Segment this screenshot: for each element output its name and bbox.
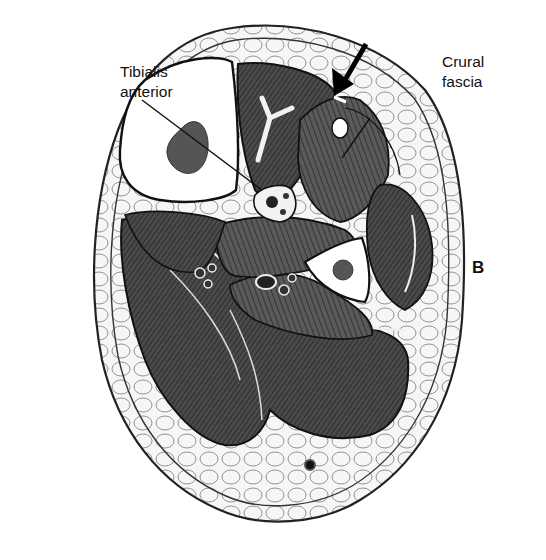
label-crural-line2: fascia bbox=[442, 72, 484, 92]
label-crural-line1: Crural bbox=[442, 52, 484, 72]
label-tibialis-line1: Tibialis bbox=[120, 62, 173, 82]
label-tibialis-line2: anterior bbox=[120, 82, 173, 102]
label-crural-fascia: Crural fascia bbox=[442, 52, 484, 92]
label-tibialis-anterior: Tibialis anterior bbox=[120, 62, 173, 102]
panel-letter: B bbox=[472, 258, 484, 278]
